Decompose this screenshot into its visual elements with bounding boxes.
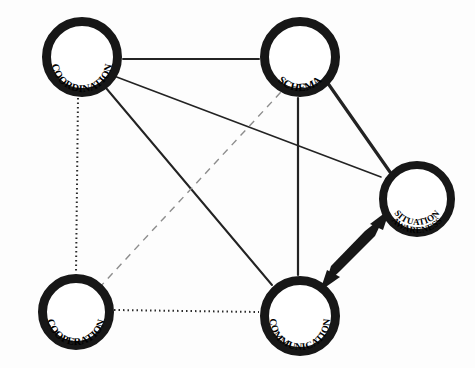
node-coordination[interactable]: COORDINATION	[47, 22, 118, 95]
diagram-svg: COORDINATION SCHEMA SITUATION AWARENESS	[0, 0, 475, 368]
edge-coordination-situation-awareness	[114, 76, 381, 177]
node-communication[interactable]: COMMUNICATION	[265, 281, 336, 353]
node-layer: COORDINATION SCHEMA SITUATION AWARENESS	[43, 22, 452, 353]
node-schema[interactable]: SCHEMA	[265, 22, 336, 94]
diagram-canvas: COORDINATION SCHEMA SITUATION AWARENESS	[0, 0, 475, 368]
edge-layer	[76, 59, 390, 312]
node-situation-awareness[interactable]: SITUATION AWARENESS	[383, 165, 451, 235]
node-communication-ring	[265, 281, 336, 352]
edge-coordination-cooperation	[76, 98, 78, 273]
edge-cooperation-communication	[114, 310, 259, 312]
edge-coordination-communication	[106, 88, 272, 285]
edge-schema-situation-awareness	[327, 82, 390, 172]
edge-cooperation-schema	[99, 92, 281, 288]
node-cooperation[interactable]: COOPERATION	[43, 279, 110, 348]
